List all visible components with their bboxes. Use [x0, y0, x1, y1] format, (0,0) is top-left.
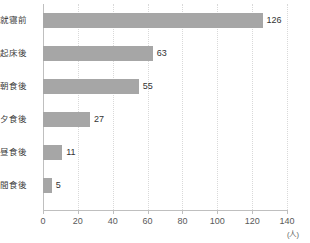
x-tick-label: 140 — [272, 216, 302, 226]
category-label: 就寝前 — [0, 13, 41, 28]
bar-value-label: 27 — [90, 112, 104, 127]
category-label: 起床後 — [0, 46, 41, 61]
x-axis-tick — [252, 210, 253, 214]
x-axis-tick — [43, 210, 44, 214]
bar-value-label: 63 — [153, 46, 167, 61]
bar-chart: 就寝前 起床後 朝食後 夕食後 昼食後 間食後 126 63 55 27 11 … — [0, 0, 310, 243]
x-axis-tick — [287, 210, 288, 214]
x-axis-tick — [148, 210, 149, 214]
bar-row: 27 — [43, 112, 287, 127]
x-axis-tick — [217, 210, 218, 214]
bar[interactable] — [43, 46, 153, 61]
x-axis-tick — [182, 210, 183, 214]
bar-row: 63 — [43, 46, 287, 61]
bar-value-label: 5 — [52, 178, 61, 193]
bar-value-label: 55 — [139, 79, 153, 94]
category-label: 朝食後 — [0, 79, 41, 94]
bar[interactable] — [43, 79, 139, 94]
x-tick-label: 120 — [237, 216, 267, 226]
x-tick-label: 80 — [167, 216, 197, 226]
x-axis-tick — [78, 210, 79, 214]
x-tick-label: 20 — [63, 216, 93, 226]
bar[interactable] — [43, 13, 263, 28]
bar-value-label: 126 — [263, 13, 282, 28]
category-label: 昼食後 — [0, 145, 41, 160]
gridline — [287, 4, 288, 210]
bar-value-label: 11 — [62, 145, 75, 160]
bar-row: 126 — [43, 13, 287, 28]
x-tick-label: 60 — [133, 216, 163, 226]
x-tick-label: 40 — [98, 216, 128, 226]
axis-unit-label: (人) — [287, 228, 299, 239]
bar-row: 11 — [43, 145, 287, 160]
x-tick-label: 0 — [28, 216, 58, 226]
bar-row: 5 — [43, 178, 287, 193]
bar[interactable] — [43, 145, 62, 160]
category-label: 間食後 — [0, 178, 41, 193]
x-tick-label: 100 — [202, 216, 232, 226]
bar[interactable] — [43, 178, 52, 193]
bar-row: 55 — [43, 79, 287, 94]
category-label: 夕食後 — [0, 112, 41, 127]
x-axis-tick — [113, 210, 114, 214]
bar[interactable] — [43, 112, 90, 127]
